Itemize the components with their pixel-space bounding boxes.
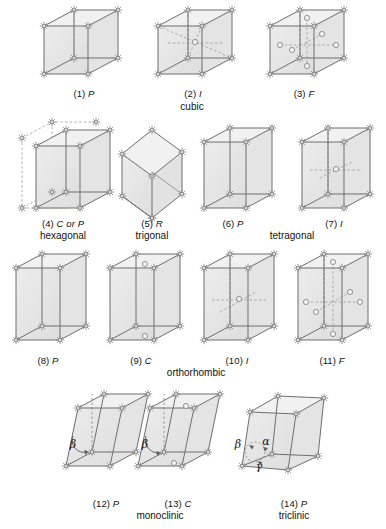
caption-number: (12) [93, 498, 110, 509]
angle-label-beta-triclinic: β [235, 438, 241, 451]
caption-number: (8) [37, 355, 49, 366]
angle-label-alpha-triclinic: α [262, 435, 269, 448]
caption-cell-14: (14) P [281, 498, 307, 509]
caption-symbol: I [199, 88, 202, 99]
caption-symbol: C or P [57, 218, 85, 229]
caption-cell-11: (11) F [319, 355, 344, 366]
caption-cell-8: (8) P [37, 355, 58, 366]
caption-symbol: P [52, 355, 58, 366]
caption-number: (3) [294, 88, 306, 99]
cell-4-hexagonal [18, 118, 114, 212]
caption-number: (2) [184, 88, 196, 99]
cell-3-cubic-F [266, 6, 348, 78]
system-label-hexagonal: hexagonal [40, 230, 86, 241]
cell-10-orthorhombic-I [200, 250, 278, 344]
caption-cell-6: (6) P [222, 218, 243, 229]
caption-number: (13) [164, 498, 181, 509]
caption-number: (1) [73, 88, 85, 99]
caption-cell-7: (7) I [325, 218, 342, 229]
system-label-monoclinic: monoclinic [136, 510, 183, 521]
cell-1-cubic-P [40, 6, 122, 78]
caption-cell-2: (2) I [184, 88, 201, 99]
system-label-triclinic: triclinic [279, 510, 310, 521]
caption-cell-9: (9) C [130, 355, 152, 366]
angle-label-beta-monoclinic-c: β [142, 438, 148, 451]
caption-number: (9) [130, 355, 142, 366]
cell-14-triclinic-P [238, 392, 328, 474]
cell-2-cubic-I [154, 6, 236, 78]
caption-number: (7) [325, 218, 337, 229]
caption-number: (5) [141, 218, 153, 229]
caption-symbol: P [113, 498, 119, 509]
caption-cell-12: (12) P [93, 498, 119, 509]
caption-number: (6) [222, 218, 234, 229]
caption-cell-3: (3) F [294, 88, 315, 99]
bravais-lattices-figure [0, 0, 386, 529]
cell-5-trigonal-R [118, 126, 186, 222]
caption-symbol: F [339, 355, 345, 366]
caption-cell-4: (4) C or P [42, 218, 84, 229]
cell-9-orthorhombic-C [106, 250, 184, 344]
caption-cell-1: (1) P [73, 88, 94, 99]
caption-cell-13: (13) C [164, 498, 191, 509]
caption-symbol: P [301, 498, 307, 509]
caption-symbol: I [246, 355, 249, 366]
caption-number: (4) [42, 218, 54, 229]
cell-6-tetragonal-P [200, 124, 276, 212]
caption-symbol: C [185, 498, 192, 509]
caption-symbol: F [308, 88, 314, 99]
caption-symbol: I [340, 218, 343, 229]
system-label-orthorhombic: orthorhombic [167, 367, 225, 378]
caption-symbol: P [237, 218, 243, 229]
caption-number: (11) [319, 355, 336, 366]
cell-12-monoclinic-P [62, 390, 152, 470]
caption-cell-5: (5) R [141, 218, 163, 229]
angle-label-beta-monoclinic-p: β [70, 438, 76, 451]
caption-symbol: P [88, 88, 94, 99]
cell-11-orthorhombic-F [294, 250, 372, 344]
cell-8-orthorhombic-P [12, 250, 90, 344]
caption-cell-10: (10) I [226, 355, 249, 366]
angle-label-gamma-triclinic: γ [256, 460, 263, 473]
system-label-cubic: cubic [180, 101, 203, 112]
caption-symbol: C [145, 355, 152, 366]
cell-7-tetragonal-I [298, 124, 374, 212]
caption-number: (10) [226, 355, 243, 366]
cell-13-monoclinic-C [134, 390, 224, 470]
system-label-trigonal: trigonal [136, 230, 169, 241]
caption-number: (14) [281, 498, 298, 509]
caption-symbol: R [156, 218, 163, 229]
system-label-tetragonal: tetragonal [270, 230, 314, 241]
